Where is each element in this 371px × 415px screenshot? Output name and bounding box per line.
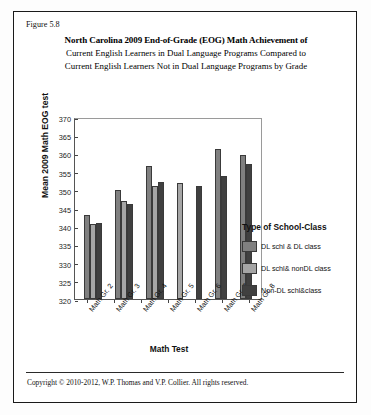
y-axis-tick: 355 [59,169,75,178]
figure-label: Figure 5.8 [26,20,60,29]
figure-page: Figure 5.8 North Carolina 2009 End-of-Gr… [0,0,371,415]
y-axis-tick: 350 [59,187,75,196]
legend-entry: DL schl & DL class [242,241,364,252]
y-axis-tick: 335 [59,242,75,251]
legend-swatch [242,241,257,252]
bar-group [215,119,227,299]
y-axis-tick: 370 [59,115,75,124]
legend-entries: DL schl & DL classDL schl& nonDL classNo… [242,241,364,296]
y-axis-tick: 365 [59,133,75,142]
figure-frame: Figure 5.8 North Carolina 2009 End-of-Gr… [13,11,357,403]
bar [221,176,227,299]
chart-legend: Type of School-Class DL schl & DL classD… [242,222,364,307]
y-axis-tick: 360 [59,151,75,160]
chart-area: Mean 2009 Math EOG test 3203253303353403… [42,112,342,355]
copyright-text: Copyright © 2010-2012, W.P. Thomas and V… [27,378,248,387]
bar-group [146,119,164,299]
bar-group [196,119,202,299]
y-axis-tick: 330 [59,260,75,269]
plot-region: 320325330335340345350355360365370 [74,118,262,300]
bar [177,183,183,299]
bar [196,186,202,299]
x-axis-labels: Math Gr. 2Math Gr. 3Math Gr. 4Math Gr. 5… [68,302,268,348]
figure-title: North Carolina 2009 End-of-Grade (EOG) M… [30,34,342,73]
y-axis-tick: 340 [59,224,75,233]
bar-group [115,119,133,299]
legend-entry: Non-DL schl&class [242,285,364,296]
bar-group [84,119,102,299]
title-line-3: Current English Learners Not in Dual Lan… [30,60,342,73]
title-line-2: Current English Learners in Dual Languag… [30,47,342,60]
legend-swatch [242,263,257,274]
legend-entry: DL schl& nonDL class [242,263,364,274]
bar-group [177,119,183,299]
y-axis-label: Mean 2009 Math EOG test [40,184,50,198]
legend-label: DL schl& nonDL class [261,264,331,273]
y-axis-tick: 345 [59,206,75,215]
title-line-1: North Carolina 2009 End-of-Grade (EOG) M… [30,34,342,47]
bar [96,223,102,299]
y-axis-tick: 325 [59,278,75,287]
legend-label: DL schl & DL class [261,242,321,251]
legend-label: Non-DL schl&class [261,286,321,295]
bar-groups [75,119,261,299]
legend-title: Type of School-Class [242,222,364,232]
legend-swatch [242,285,257,296]
footer-divider [26,372,344,373]
x-axis-title: Math Test [94,344,244,354]
